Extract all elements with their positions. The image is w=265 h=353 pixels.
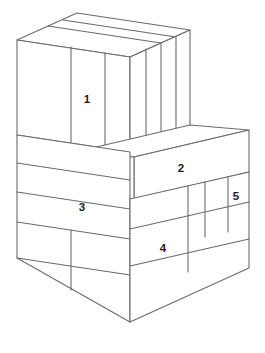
base-front-face-group	[130, 172, 249, 322]
upper-block-left-face	[17, 40, 130, 152]
block-label-1: 1	[84, 93, 91, 105]
isometric-block-drawing: 1 2 3 4 5	[0, 0, 265, 353]
block-label-4: 4	[160, 242, 167, 254]
block-label-5: 5	[233, 190, 240, 202]
block-diagram-figure: 1 2 3 4 5	[0, 0, 265, 353]
base-left-face-group	[17, 135, 130, 322]
block-label-2: 2	[178, 162, 184, 174]
base-front-face	[130, 172, 249, 322]
upper-block-left-face-group	[17, 40, 130, 152]
block-label-3: 3	[79, 201, 85, 213]
base-left-face	[17, 135, 130, 322]
